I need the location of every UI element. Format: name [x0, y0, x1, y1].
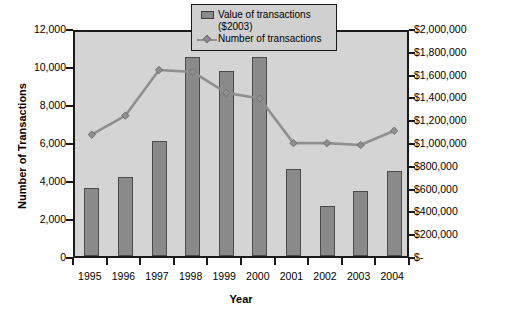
line-diamond-icon: [196, 33, 218, 45]
y-axis-left-tick-mark: [66, 181, 73, 183]
y-axis-right-tick-label: $1,600,000: [414, 70, 467, 80]
y-axis-right-tick-mark: [409, 211, 415, 213]
y-axis-left-tick-mark: [66, 105, 73, 107]
y-axis-left-tick-label: 4,000: [40, 176, 66, 186]
y-axis-right-tick-mark: [409, 29, 415, 31]
y-axis-right-tick-mark: [409, 166, 415, 168]
y-axis-left-tick-mark: [66, 29, 73, 31]
y-axis-right-tick-label: $800,000: [414, 161, 458, 171]
y-axis-right-tick-label: $-: [414, 252, 423, 262]
x-axis-tick-mark: [307, 258, 309, 265]
y-axis-left-tick-label: 10,000: [34, 62, 66, 72]
bar-1997: [152, 141, 167, 256]
y-axis-left-tick-label: 6,000: [40, 138, 66, 148]
x-axis-tick-mark: [139, 258, 141, 265]
line-marker-1996: [122, 112, 129, 119]
y-axis-right-tick-mark: [409, 120, 415, 122]
legend-label-value-line2: ($2003): [218, 21, 252, 32]
bar-2002: [320, 206, 335, 256]
legend-label-number: Number of transactions: [218, 33, 321, 44]
y-axis-right-tick-label: $600,000: [414, 184, 458, 194]
y-axis-right-tick-mark: [409, 75, 415, 77]
y-axis-right-tick-label: $400,000: [414, 206, 458, 216]
x-axis-tick-mark: [274, 258, 276, 265]
y-axis-right-tick-mark: [409, 189, 415, 191]
line-marker-2002: [323, 139, 330, 146]
legend-label-value-line1: Value of transactions: [218, 9, 311, 20]
line-marker-2003: [357, 141, 364, 148]
chart-legend: Value of transactions ($2003) Number of …: [191, 4, 337, 51]
y-axis-left-tick-mark: [66, 143, 73, 145]
y-axis-right-tick-mark: [409, 52, 415, 54]
bar-2001: [286, 169, 301, 256]
y-axis-right-tick-label: $1,800,000: [414, 47, 467, 57]
y-axis-left-tick-label: 12,000: [34, 24, 66, 34]
x-axis-tick-mark: [374, 258, 376, 265]
x-axis-tick-mark: [341, 258, 343, 265]
legend-item-number: Number of transactions: [196, 33, 332, 45]
bar-1998: [185, 57, 200, 257]
x-axis-tick-label: 2004: [372, 270, 412, 282]
bar-2000: [252, 57, 267, 256]
x-axis-title: Year: [73, 293, 409, 305]
y-axis-left-tick-label: 2,000: [40, 214, 66, 224]
line-marker-1997: [155, 66, 162, 73]
x-axis-tick-mark: [106, 258, 108, 265]
x-axis-tick-mark: [72, 258, 74, 265]
line-marker-2001: [290, 139, 297, 146]
y-axis-right-tick-label: $1,200,000: [414, 115, 467, 125]
y-axis-right-tick-label: $2,000,000: [414, 24, 467, 34]
y-axis-right-tick-mark: [409, 234, 415, 236]
y-axis-right-tick-label: $1,000,000: [414, 138, 467, 148]
bar-swatch-icon: [196, 9, 218, 21]
line-path: [92, 70, 394, 145]
y-axis-right-tick-label: $1,400,000: [414, 92, 467, 102]
bar-1995: [84, 188, 99, 256]
chart-figure: Number of Transactions Value of Transact…: [0, 0, 505, 316]
plot-area: [73, 30, 409, 258]
x-axis-tick-mark: [408, 258, 410, 265]
y-axis-left-tick-mark: [66, 67, 73, 69]
y-axis-right-tick-mark: [409, 97, 415, 99]
y-axis-left-title: Number of Transactions: [16, 46, 28, 246]
x-axis-tick-mark: [206, 258, 208, 265]
x-axis-tick-mark: [173, 258, 175, 265]
bar-2003: [353, 191, 368, 256]
y-axis-right-tick-mark: [409, 143, 415, 145]
line-marker-2004: [391, 127, 398, 134]
y-axis-right-tick-label: $200,000: [414, 229, 458, 239]
legend-item-value: Value of transactions ($2003): [196, 9, 332, 32]
bar-1996: [118, 177, 133, 256]
bar-2004: [387, 171, 402, 256]
line-marker-1995: [88, 131, 95, 138]
y-axis-left-tick-mark: [66, 219, 73, 221]
y-axis-left-tick-label: 8,000: [40, 100, 66, 110]
bar-1999: [219, 71, 234, 256]
x-axis-tick-mark: [240, 258, 242, 265]
